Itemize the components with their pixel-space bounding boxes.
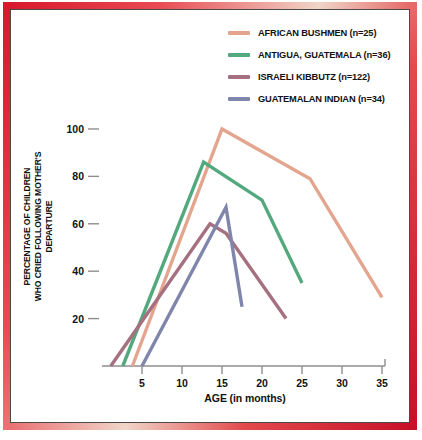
y-tick-label-80: 80 — [72, 170, 84, 182]
x-tick-label-25: 25 — [296, 377, 308, 389]
x-tick-label-35: 35 — [376, 377, 388, 389]
series-line-1 — [123, 162, 302, 366]
series-group — [111, 129, 382, 366]
series-line-2 — [111, 224, 286, 366]
x-tick-label-30: 30 — [336, 377, 348, 389]
y-tick-label-100: 100 — [66, 123, 84, 135]
x-tick-label-20: 20 — [256, 377, 268, 389]
y-tick-label-20: 20 — [72, 313, 84, 325]
chart-area: 204060801005101520253035 PERCENTAGE OF C… — [0, 0, 422, 440]
x-tick-label-5: 5 — [139, 377, 145, 389]
x-tick-label-15: 15 — [216, 377, 228, 389]
line-chart-svg: 204060801005101520253035 — [0, 0, 422, 440]
y-axis-label: PERCENTAGE OF CHILDREN WHO CRIED FOLLOWI… — [22, 127, 55, 327]
y-tick-label-60: 60 — [72, 218, 84, 230]
y-axis-label-line1: PERCENTAGE OF CHILDREN — [22, 168, 32, 286]
x-axis-label: AGE (in months) — [150, 392, 340, 404]
figure-frame: AFRICAN BUSHMEN (n=25) ANTIGUA, GUATEMAL… — [0, 0, 422, 440]
y-tick-label-40: 40 — [72, 265, 84, 277]
x-tick-label-10: 10 — [176, 377, 188, 389]
series-line-3 — [142, 207, 242, 366]
axis-group: 204060801005101520253035 — [66, 123, 388, 389]
y-axis-label-line2: WHO CRIED FOLLOWING MOTHER'S DEPARTURE — [33, 127, 55, 327]
